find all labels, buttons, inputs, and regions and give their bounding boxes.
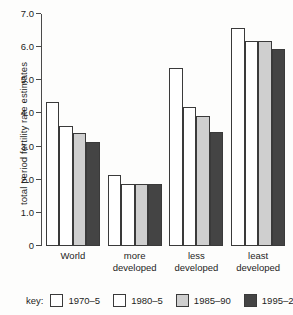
y-axis-tick: 1.0 bbox=[3, 207, 41, 218]
bar bbox=[108, 175, 122, 246]
bar bbox=[245, 41, 259, 246]
x-axis-category-label-line: least bbox=[219, 250, 293, 262]
legend-swatch bbox=[113, 294, 126, 307]
legend-swatch bbox=[176, 294, 189, 307]
chart-figure: total period fertility rate estimates 7.… bbox=[0, 0, 293, 315]
y-axis-tick-mark bbox=[36, 179, 41, 180]
y-axis-tick-mark bbox=[36, 79, 41, 80]
y-axis-tick: 3.0 bbox=[3, 141, 41, 152]
y-axis-tick: 5.0 bbox=[3, 74, 41, 85]
bar-group bbox=[231, 14, 285, 246]
legend-swatch bbox=[244, 294, 257, 307]
legend-item: 1985–90 bbox=[176, 294, 231, 307]
y-axis-tick: 2.0 bbox=[3, 174, 41, 185]
legend-label: 1980–5 bbox=[131, 295, 163, 306]
legend-title: key: bbox=[26, 295, 43, 306]
y-axis-tick: 6.0 bbox=[3, 41, 41, 52]
y-axis-tick-mark bbox=[36, 245, 41, 246]
bar-group bbox=[169, 14, 223, 246]
y-axis-tick-label: 3.0 bbox=[21, 141, 34, 152]
bar bbox=[59, 126, 73, 246]
bar bbox=[169, 68, 183, 246]
y-axis-tick-label: 7.0 bbox=[21, 8, 34, 19]
legend-items: 1970–51980–51985–901995–2000 bbox=[50, 294, 293, 307]
bar-group bbox=[108, 14, 162, 246]
bar bbox=[148, 184, 162, 246]
legend-label: 1970–5 bbox=[68, 295, 100, 306]
bar bbox=[258, 41, 272, 246]
y-axis-tick-label: 1.0 bbox=[21, 207, 34, 218]
bar bbox=[73, 133, 87, 246]
y-axis-tick-mark bbox=[36, 212, 41, 213]
legend-swatch bbox=[50, 294, 63, 307]
y-axis-tick-label: 2.0 bbox=[21, 174, 34, 185]
y-axis-tick-mark bbox=[36, 46, 41, 47]
bar bbox=[231, 28, 245, 246]
legend-item: 1970–5 bbox=[50, 294, 100, 307]
bar-group bbox=[46, 14, 100, 246]
y-axis-tick-label: 6.0 bbox=[21, 41, 34, 52]
x-axis-category-label-line: developed bbox=[219, 262, 293, 274]
y-axis-tick-mark bbox=[36, 112, 41, 113]
plot-area: 7.06.05.04.03.02.01.00 bbox=[41, 14, 289, 246]
bar bbox=[210, 132, 224, 246]
legend-item: 1995–2000 bbox=[244, 294, 293, 307]
bar bbox=[121, 184, 135, 246]
y-axis-tick: 7.0 bbox=[3, 8, 41, 19]
legend-label: 1985–90 bbox=[194, 295, 231, 306]
bar-series-container bbox=[42, 14, 289, 246]
bar bbox=[196, 116, 210, 246]
bar bbox=[183, 107, 197, 246]
x-axis-category-label: leastdeveloped bbox=[219, 250, 293, 273]
y-axis-tick-mark bbox=[36, 13, 41, 14]
bar bbox=[86, 142, 100, 246]
bar bbox=[46, 102, 60, 246]
bar bbox=[272, 49, 286, 246]
bar bbox=[135, 184, 149, 246]
y-axis-tick-mark bbox=[36, 146, 41, 147]
legend-item: 1980–5 bbox=[113, 294, 163, 307]
y-axis-tick-label: 5.0 bbox=[21, 74, 34, 85]
chart-legend: key: 1970–51980–51985–901995–2000 bbox=[26, 292, 293, 308]
y-axis-tick-label: 4.0 bbox=[21, 107, 34, 118]
legend-label: 1995–2000 bbox=[262, 295, 293, 306]
y-axis-tick: 4.0 bbox=[3, 107, 41, 118]
